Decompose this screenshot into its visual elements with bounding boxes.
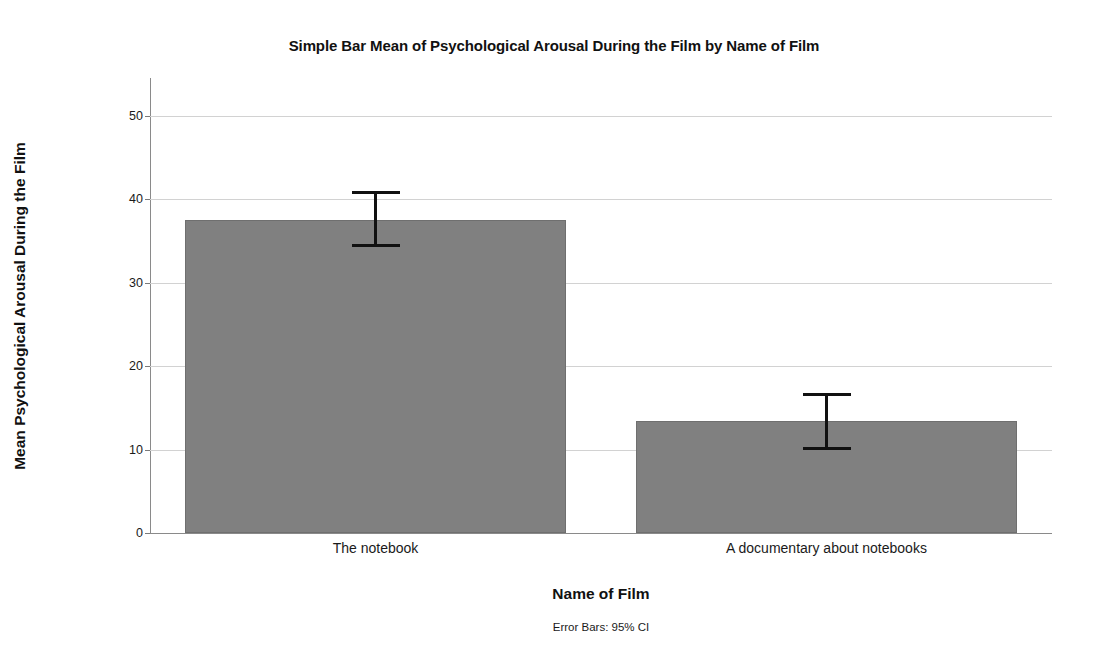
y-axis-tick-label: 30: [129, 276, 143, 290]
error-bar-annotation: Error Bars: 95% CI: [150, 621, 1052, 633]
error-bar: [352, 191, 400, 248]
x-axis-category-labels: The notebookA documentary about notebook…: [150, 540, 1052, 564]
y-axis-tick-labels: 01020304050: [110, 78, 143, 533]
error-bar-cap-lower: [352, 244, 400, 247]
error-bar-cap-upper: [352, 191, 400, 194]
error-bar-cap-upper: [803, 393, 851, 396]
y-axis-tick-mark: [145, 199, 150, 200]
y-axis-tick-mark: [145, 366, 150, 367]
x-axis-category-label: The notebook: [333, 540, 419, 556]
y-axis-tick-mark: [145, 283, 150, 284]
error-bar-stem: [825, 393, 828, 450]
y-axis-tick-label: 0: [136, 526, 143, 540]
y-axis-line: [150, 78, 151, 533]
y-axis-tick-label: 40: [129, 192, 143, 206]
bar: [185, 220, 566, 533]
error-bar-stem: [374, 191, 377, 248]
y-axis-title-container: Mean Psychological Arousal During the Fi…: [0, 78, 40, 534]
x-axis-line: [150, 533, 1052, 534]
chart-title: Simple Bar Mean of Psychological Arousal…: [0, 37, 1108, 54]
y-axis-title: Mean Psychological Arousal During the Fi…: [11, 142, 29, 470]
bar-chart: Simple Bar Mean of Psychological Arousal…: [0, 0, 1108, 657]
x-axis-title: Name of Film: [150, 585, 1052, 603]
x-axis-category-label: A documentary about notebooks: [726, 540, 927, 556]
y-axis-tick-mark: [145, 116, 150, 117]
y-axis-tick-mark: [145, 533, 150, 534]
plot-area: [150, 78, 1052, 533]
y-axis-tick-label: 10: [129, 443, 143, 457]
y-axis-tick-mark: [145, 450, 150, 451]
error-bar-cap-lower: [803, 447, 851, 450]
error-bar: [803, 393, 851, 450]
gridline: [150, 116, 1052, 117]
y-axis-tick-label: 50: [129, 109, 143, 123]
gridline: [150, 199, 1052, 200]
y-axis-tick-label: 20: [129, 359, 143, 373]
